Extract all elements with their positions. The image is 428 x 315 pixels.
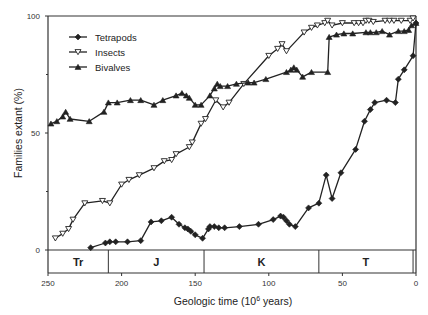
y-tick-label: 0	[36, 246, 41, 255]
x-tick-label: 100	[262, 279, 276, 288]
triangle-up-marker	[387, 32, 393, 37]
triangle-down-marker	[151, 166, 157, 171]
x-tick-label: 200	[115, 279, 129, 288]
x-tick-label: 150	[189, 279, 203, 288]
diamond-marker	[236, 224, 242, 230]
period-label-tr: Tr	[73, 256, 84, 268]
triangle-down-marker	[314, 23, 320, 28]
diamond-marker	[395, 76, 401, 82]
period-label-k: K	[257, 256, 265, 268]
series-line	[91, 23, 416, 248]
geologic-period-band: TrJKT	[48, 250, 416, 273]
diamond-marker	[255, 221, 261, 227]
triangle-down-marker	[198, 121, 204, 126]
triangle-up-marker	[63, 109, 69, 114]
diamond-marker	[316, 200, 322, 206]
extinction-chart: TrJKT 250200150100500050100 TetrapodsIns…	[0, 0, 428, 315]
triangle-down-marker	[220, 105, 226, 110]
triangle-down-marker	[70, 217, 76, 222]
diamond-marker	[148, 219, 154, 225]
triangle-up-marker	[48, 121, 54, 126]
diamond-marker	[384, 97, 390, 103]
diamond-marker	[113, 239, 119, 245]
legend-label: Insects	[95, 47, 125, 58]
diamond-marker	[138, 238, 144, 244]
triangle-up-marker	[60, 114, 66, 119]
diamond-marker	[124, 239, 130, 245]
legend-item-bivalves: Bivalves	[69, 62, 131, 73]
legend-label: Tetrapods	[95, 32, 137, 43]
diamond-marker	[392, 100, 398, 106]
triangle-down-marker	[283, 49, 289, 54]
diamond-marker	[75, 34, 81, 40]
triangle-up-marker	[179, 91, 185, 96]
triangle-down-marker	[119, 182, 125, 187]
diamond-marker	[323, 172, 329, 178]
diamond-marker	[200, 235, 206, 241]
x-axis-title-base: Geologic time (10	[174, 295, 256, 307]
legend: TetrapodsInsectsBivalves	[69, 32, 137, 73]
diamond-marker	[270, 217, 276, 223]
diamond-marker	[410, 53, 416, 59]
diamond-marker	[222, 225, 228, 231]
diamond-marker	[372, 100, 378, 106]
triangle-down-marker	[186, 145, 192, 150]
triangle-up-marker	[211, 86, 217, 91]
x-axis-title-tail: years)	[260, 295, 292, 307]
legend-item-tetrapods: Tetrapods	[69, 32, 137, 43]
triangle-down-marker	[52, 236, 58, 241]
series-tetrapods	[88, 20, 419, 251]
diamond-marker	[158, 218, 164, 224]
x-tick-label: 250	[41, 279, 55, 288]
triangle-up-marker	[207, 93, 213, 98]
axes: 250200150100500050100	[27, 12, 419, 288]
triangle-down-marker	[107, 201, 113, 206]
legend-label: Bivalves	[95, 62, 131, 73]
triangle-up-marker	[101, 109, 107, 114]
triangle-down-marker	[136, 173, 142, 178]
x-tick-label: 0	[414, 279, 419, 288]
y-tick-label: 50	[31, 129, 40, 138]
y-axis-title: Families extant (%)	[12, 88, 24, 178]
diamond-marker	[338, 170, 344, 176]
x-tick-label: 50	[338, 279, 347, 288]
period-label-j: J	[153, 256, 159, 268]
diamond-marker	[361, 118, 367, 124]
diamond-marker	[329, 196, 335, 202]
y-tick-label: 100	[27, 12, 41, 21]
legend-item-insects: Insects	[69, 47, 125, 58]
period-label-t: T	[363, 256, 370, 268]
x-axis-title: Geologic time (106 years)	[174, 295, 292, 307]
